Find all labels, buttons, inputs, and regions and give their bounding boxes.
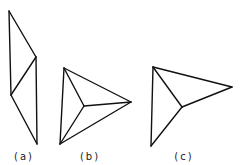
edge-a-right_mid-left_mid bbox=[11, 57, 36, 95]
figure-c-label: (c) bbox=[174, 151, 193, 162]
edge-b-right-bottom bbox=[60, 102, 131, 144]
edge-c-top-bottom bbox=[151, 67, 153, 146]
diagram-canvas: (a) (b) (c) bbox=[0, 0, 243, 165]
figure-b-label: (b) bbox=[80, 151, 100, 162]
figure-a-label: (a) bbox=[14, 151, 34, 162]
edge-b-bottom-center bbox=[60, 106, 84, 144]
edge-c-right-center bbox=[182, 87, 232, 107]
figure-a-graph bbox=[9, 11, 37, 144]
edge-b-top-right bbox=[64, 68, 131, 102]
edge-c-bottom-center bbox=[151, 107, 182, 146]
figure-c-graph bbox=[151, 67, 232, 146]
edge-a-left_mid-bottom bbox=[11, 95, 37, 144]
edge-b-top-bottom bbox=[60, 68, 64, 144]
graph-drawings bbox=[0, 0, 243, 165]
figure-b-graph bbox=[60, 68, 131, 144]
edge-a-top-left_mid bbox=[9, 11, 11, 95]
edge-a-top-right_mid bbox=[9, 11, 36, 57]
edge-a-right_mid-bottom bbox=[36, 57, 37, 144]
